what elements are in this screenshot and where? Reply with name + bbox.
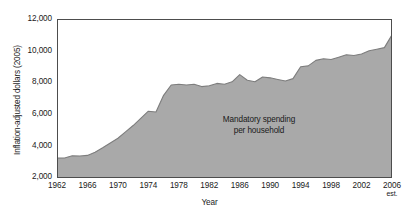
x-tick-label-text: 1982	[200, 181, 218, 190]
x-tick-label-text: 1986	[231, 181, 249, 190]
x-tick-label-text: 1962	[48, 181, 66, 190]
x-tick-label-text: 1994	[292, 181, 310, 190]
x-tick-label: 1998	[322, 181, 340, 190]
x-tick-label-text: 1998	[322, 181, 340, 190]
x-tick-label: 1986	[231, 181, 249, 190]
x-tick-label-text: 1974	[139, 181, 157, 190]
x-tick-label: 1990	[261, 181, 279, 190]
x-tick-label-text: 2002	[353, 181, 371, 190]
x-tick-label-note: est.	[383, 190, 401, 198]
x-tick-label-text: 1990	[261, 181, 279, 190]
x-tick-label: 1982	[200, 181, 218, 190]
x-tick-label: 1962	[48, 181, 66, 190]
x-axis-tick-labels: 1962196619701974197819821986199019941998…	[0, 0, 419, 217]
x-axis-title: Year	[0, 198, 419, 207]
x-tick-label: 1966	[79, 181, 97, 190]
x-tick-label: 1978	[170, 181, 188, 190]
chart-figure: Inflation-adjusted dollars (2005) 12,000…	[0, 0, 419, 217]
x-tick-label-text: 1978	[170, 181, 188, 190]
x-tick-label: 2006est.	[383, 181, 401, 198]
x-tick-label: 1970	[109, 181, 127, 190]
x-tick-label-text: 2006	[383, 181, 401, 190]
x-tick-label: 1974	[139, 181, 157, 190]
x-tick-label: 1994	[292, 181, 310, 190]
x-tick-label: 2002	[353, 181, 371, 190]
x-tick-label-text: 1966	[79, 181, 97, 190]
x-tick-label-text: 1970	[109, 181, 127, 190]
